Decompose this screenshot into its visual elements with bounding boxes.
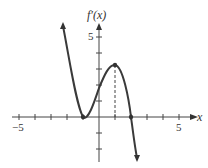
point-max	[113, 63, 117, 67]
graph: −5 5 5 f′(x) x	[0, 0, 208, 168]
y-max-label: 5	[88, 30, 94, 42]
curve-arrow-up-icon	[60, 22, 66, 29]
y-axis-title: f′(x)	[87, 8, 106, 22]
point-min	[81, 115, 85, 119]
y-axis-arrow-icon	[96, 23, 102, 30]
f-prime-curve	[63, 26, 137, 158]
x-axis-title: x	[196, 110, 203, 124]
x-min-label: −5	[12, 121, 24, 133]
curve-arrow-down-icon	[134, 155, 140, 162]
x-max-label: 5	[176, 121, 182, 133]
point-zero	[129, 115, 133, 119]
